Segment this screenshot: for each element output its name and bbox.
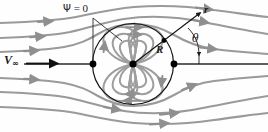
front-stagnation-point — [90, 61, 97, 68]
arrow-upper-near-right — [200, 48, 214, 50]
arrow-upper-near-left — [24, 51, 36, 52]
psi-symbol: Ψ — [63, 3, 71, 14]
radius-label: R — [156, 44, 163, 55]
arrow-lower-far-right — [150, 123, 166, 124]
radial-coordinate-label: r — [204, 4, 208, 15]
vortex-arrow-right-lower — [161, 76, 162, 84]
center-point — [129, 60, 136, 67]
vortex-arrow-left-upper — [104, 44, 105, 52]
velocity-symbol: V — [4, 53, 12, 67]
freestream-velocity-label: V∞ — [4, 54, 19, 68]
psi-value: = 0 — [74, 2, 88, 14]
streamfunction-label: Ψ = 0 — [63, 3, 88, 14]
infinity-subscript: ∞ — [12, 59, 19, 68]
arrow-upper-mid-left — [30, 36, 42, 37]
figure-container: Ψ = 0 V∞ R r θ — [0, 0, 268, 132]
rear-stagnation-point — [171, 61, 178, 68]
arrow-upper-far-left — [38, 21, 50, 22]
angle-label: θ — [192, 33, 199, 44]
arrow-lower-near-left — [24, 79, 36, 80]
streamline-diagram — [0, 0, 268, 132]
